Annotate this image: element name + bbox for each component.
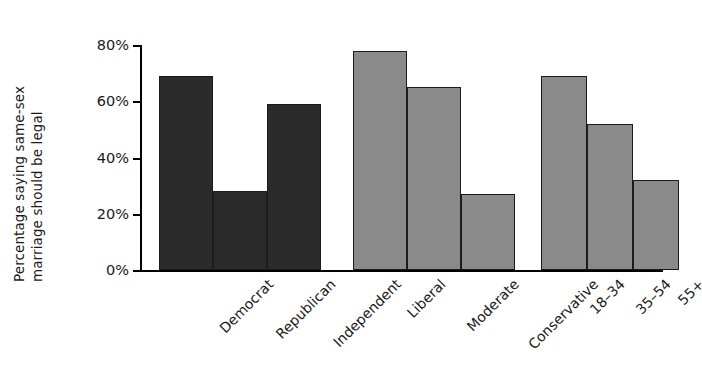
bar [633, 180, 679, 270]
bar [587, 124, 633, 270]
x-tick-label: 35–54 [632, 276, 673, 317]
y-tick-mark [133, 101, 141, 103]
bar [461, 194, 515, 270]
bar [267, 104, 321, 270]
y-tick-label: 0% [106, 262, 129, 278]
x-tick-label: Liberal [404, 276, 449, 321]
y-tick-label: 80% [97, 37, 129, 53]
x-axis-tick-labels: DemocratRepublicanIndependentLiberalMode… [141, 276, 681, 371]
bar [353, 51, 407, 270]
x-tick-label: Republican [273, 276, 339, 342]
y-axis-title-line-2: marriage should be legal [29, 111, 45, 282]
bar [407, 87, 461, 270]
x-tick-label: Democrat [216, 276, 276, 336]
plot-area: 0%20%40%60%80% [141, 45, 666, 270]
y-tick-mark [133, 270, 141, 272]
x-tick-label: Conservative [525, 276, 601, 352]
bar-chart: Percentage saying same-sex marriage shou… [0, 0, 702, 375]
bar [213, 191, 267, 270]
y-tick-mark [133, 158, 141, 160]
y-tick-label: 40% [97, 150, 129, 166]
y-tick-mark [133, 45, 141, 47]
x-tick-label: Moderate [464, 276, 522, 334]
bar [541, 76, 587, 270]
y-axis-title-line-1: Percentage saying same-sex [11, 86, 27, 282]
x-tick-label: Independent [330, 276, 404, 350]
y-tick-label: 60% [97, 93, 129, 109]
y-axis-title: Percentage saying same-sex marriage shou… [8, 20, 52, 282]
y-tick-mark [133, 214, 141, 216]
y-tick-label: 20% [97, 206, 129, 222]
bar [159, 76, 213, 270]
x-tick-label: 55+ [675, 276, 702, 308]
bars-layer [141, 45, 666, 270]
x-axis-line [140, 270, 663, 272]
